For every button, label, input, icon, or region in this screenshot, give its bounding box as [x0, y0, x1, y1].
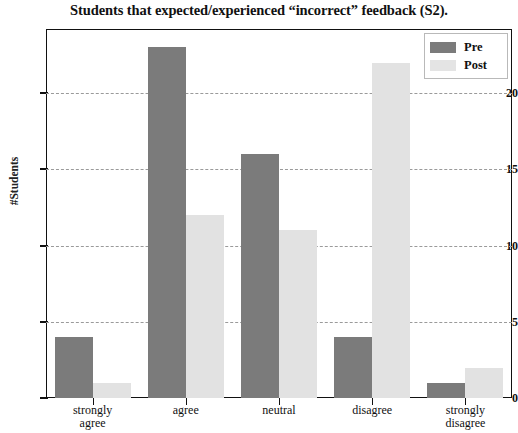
plot-area	[46, 29, 512, 398]
bar-pre-agree	[148, 47, 186, 398]
x-axis-category-line: agree	[136, 404, 236, 417]
bar-post-agree	[186, 215, 224, 398]
legend-item-pre: Pre	[430, 38, 502, 56]
chart-title: Students that expected/experienced “inco…	[0, 2, 518, 19]
x-axis-category-line: agree	[43, 417, 143, 430]
x-axis-category-label: agree	[136, 404, 236, 417]
bar-pre-disagree	[334, 337, 372, 398]
x-axis-category-label: stronglyagree	[43, 404, 143, 430]
gridline	[46, 93, 512, 94]
bar-pre-strongly-agree	[55, 337, 93, 398]
bar-pre-neutral	[241, 154, 279, 398]
x-axis-category-line: disagree	[415, 417, 515, 430]
bar-pre-strongly-disagree	[427, 383, 465, 398]
legend-label-post: Post	[464, 58, 487, 73]
x-axis-category-label: neutral	[229, 404, 329, 417]
legend-label-pre: Pre	[464, 40, 483, 55]
legend-item-post: Post	[430, 56, 502, 74]
x-axis-category-label: disagree	[322, 404, 422, 417]
legend-swatch-post	[430, 60, 456, 71]
bar-chart: Students that expected/experienced “inco…	[0, 0, 518, 433]
x-axis-category-line: disagree	[322, 404, 422, 417]
bar-post-neutral	[279, 230, 317, 398]
x-axis-category-label: stronglydisagree	[415, 404, 515, 430]
legend-swatch-pre	[430, 42, 456, 53]
y-axis-title: #Students	[8, 136, 20, 226]
x-axis-category-line: neutral	[229, 404, 329, 417]
bar-post-strongly-disagree	[465, 368, 503, 398]
bar-post-strongly-agree	[93, 383, 131, 398]
bar-post-disagree	[372, 63, 410, 398]
gridline	[46, 169, 512, 170]
chart-legend: Pre Post	[424, 33, 508, 79]
